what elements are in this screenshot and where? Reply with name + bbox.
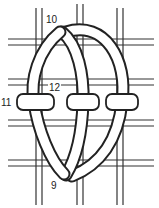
tie-bar-right bbox=[106, 94, 138, 110]
tie-bar-left bbox=[17, 94, 54, 110]
stitch-diagram: 10 12 11 9 bbox=[0, 0, 159, 208]
label-9: 9 bbox=[51, 180, 57, 191]
label-12: 12 bbox=[49, 82, 61, 93]
tie-bar-middle bbox=[67, 94, 99, 110]
label-10: 10 bbox=[46, 14, 58, 25]
tie-bars bbox=[17, 94, 138, 110]
label-11: 11 bbox=[1, 97, 12, 108]
